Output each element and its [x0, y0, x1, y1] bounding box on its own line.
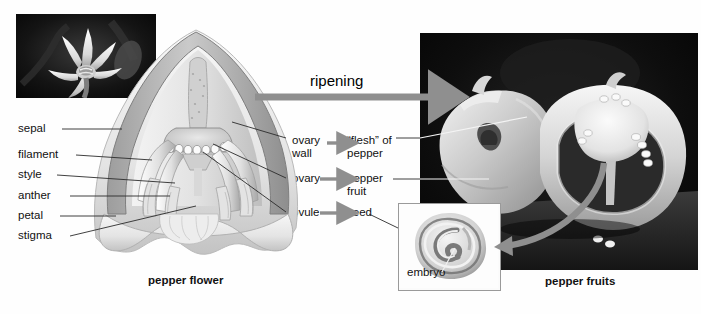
conversion-arrows: [320, 143, 341, 213]
flower-photo-graphic: [16, 14, 156, 98]
label-stigma: stigma: [18, 229, 52, 242]
label-petal: petal: [18, 209, 43, 222]
label-sepal: sepal: [18, 122, 46, 135]
ripening-label: ripening: [310, 72, 363, 89]
label-flesh-of-pepper: “flesh” of: [347, 134, 392, 147]
label-pepper-fruit: pepper: [347, 172, 383, 185]
label-pepper-fruit-line2: fruit: [347, 185, 366, 198]
label-seed: seed: [347, 206, 372, 219]
caption-pepper-flower: pepper flower: [148, 274, 223, 287]
transformation-leader-lines: [203, 122, 286, 212]
flower-leader-lines: [57, 129, 196, 236]
label-flesh-of-pepper-line2: pepper: [347, 147, 383, 160]
figure-canvas: ripening sepal filament style anther pet…: [0, 0, 701, 314]
pepper-flower-photo: [16, 14, 156, 98]
label-anther: anther: [18, 189, 51, 202]
label-embryo: embryo: [407, 266, 445, 279]
label-ovary-wall-line2: wall: [292, 147, 312, 160]
label-filament: filament: [18, 148, 58, 161]
label-ovule: ovule: [292, 206, 320, 219]
label-style: style: [18, 168, 42, 181]
caption-pepper-fruits: pepper fruits: [545, 275, 615, 288]
label-ovary-wall: ovary: [292, 134, 320, 147]
label-ovary: ovary: [292, 172, 320, 185]
